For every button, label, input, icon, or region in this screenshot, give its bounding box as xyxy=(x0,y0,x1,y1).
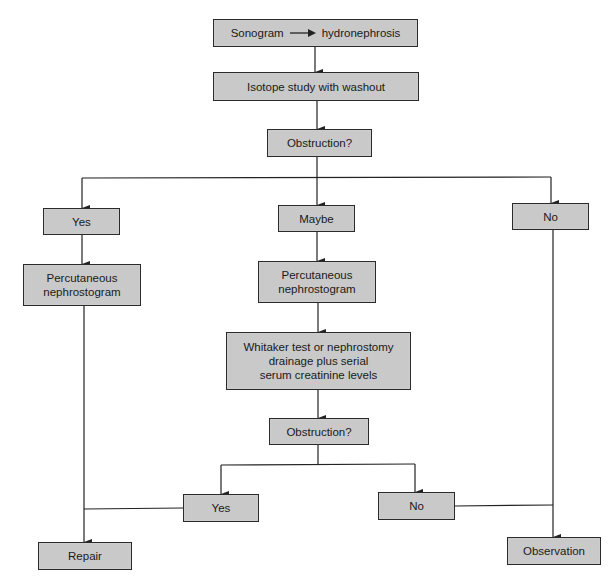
node-no-1: No xyxy=(512,203,589,230)
node-obstruction-2: Obstruction? xyxy=(269,418,369,445)
node-obstruction-1: Obstruction? xyxy=(267,129,372,157)
node-isotope-study: Isotope study with washout xyxy=(213,72,419,101)
sonogram-label: Sonogram xyxy=(231,26,284,40)
arrow-right-icon xyxy=(290,29,316,37)
node-repair: Repair xyxy=(38,542,132,570)
node-percutaneous-nephrostogram-left: Percutaneous nephrostogram xyxy=(23,264,141,306)
node-yes-2: Yes xyxy=(183,494,259,522)
node-maybe: Maybe xyxy=(278,205,355,232)
flowchart-canvas: Sonogram hydronephrosis Isotope study wi… xyxy=(0,0,615,584)
node-observation: Observation xyxy=(507,537,601,565)
node-yes-1: Yes xyxy=(43,208,120,235)
node-percutaneous-nephrostogram-middle: Percutaneous nephrostogram xyxy=(258,261,376,303)
node-whitaker-test: Whitaker test or nephrostomy drainage pl… xyxy=(226,332,411,390)
node-sonogram-hydronephrosis: Sonogram hydronephrosis xyxy=(213,19,418,47)
node-no-2: No xyxy=(378,492,455,520)
hydronephrosis-label: hydronephrosis xyxy=(322,26,401,40)
